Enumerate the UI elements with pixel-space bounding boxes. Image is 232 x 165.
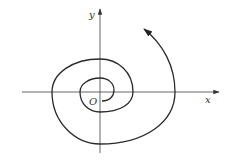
spiral-diagram: y x O [0, 0, 232, 165]
x-axis-label: x [205, 94, 211, 105]
spiral-trajectory [52, 29, 175, 144]
origin-label: O [89, 96, 97, 107]
y-axis-label: y [88, 9, 95, 20]
